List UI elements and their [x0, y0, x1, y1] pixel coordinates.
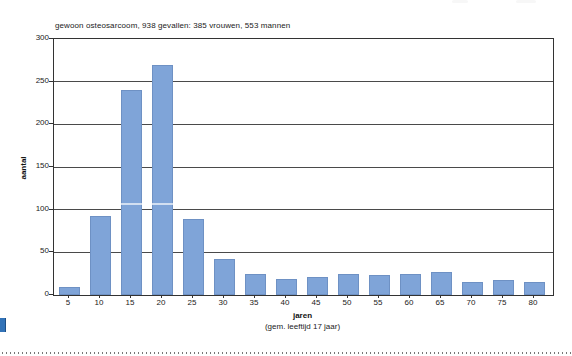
gridline — [54, 81, 553, 82]
x-tick-label: 80 — [520, 298, 546, 308]
x-tick-mark — [316, 295, 317, 298]
x-tick-label: 5 — [55, 298, 81, 308]
x-tick-mark — [347, 295, 348, 298]
y-tick-label: 50 — [17, 246, 49, 256]
bar — [307, 277, 328, 295]
dotted-divider — [2, 351, 572, 354]
figure: gewoon osteosarcoom, 938 gevallen: 385 v… — [0, 0, 572, 356]
bar — [59, 287, 80, 295]
x-tick-label: 25 — [179, 298, 205, 308]
x-tick-mark — [192, 295, 193, 298]
x-tick-label: 20 — [148, 298, 174, 308]
bar — [245, 274, 266, 295]
bar — [338, 274, 359, 295]
x-tick-label: 55 — [365, 298, 391, 308]
y-tick-label: 0 — [17, 289, 49, 299]
y-tick-mark — [49, 38, 53, 39]
y-tick-mark — [49, 209, 53, 210]
x-tick-label: 75 — [489, 298, 515, 308]
y-tick-mark — [49, 294, 53, 295]
x-tick-mark — [99, 295, 100, 298]
y-tick-mark — [49, 123, 53, 124]
x-tick-label: 60 — [396, 298, 422, 308]
x-tick-label: 70 — [458, 298, 484, 308]
x-tick-label: 50 — [334, 298, 360, 308]
y-tick-label: 150 — [17, 161, 49, 171]
bar — [90, 216, 111, 295]
x-axis-note: (gem. leeftijd 17 jaar) — [53, 322, 552, 331]
bar — [462, 282, 483, 295]
x-tick-label: 65 — [427, 298, 453, 308]
bar — [276, 279, 297, 295]
y-tick-label: 250 — [17, 76, 49, 86]
x-tick-mark — [471, 295, 472, 298]
bar — [152, 65, 173, 295]
x-tick-label: 10 — [86, 298, 112, 308]
bar — [493, 280, 514, 295]
x-tick-mark — [285, 295, 286, 298]
x-tick-label: 40 — [272, 298, 298, 308]
x-tick-mark — [378, 295, 379, 298]
x-tick-mark — [161, 295, 162, 298]
y-tick-mark — [49, 251, 53, 252]
x-tick-label: 35 — [241, 298, 267, 308]
x-axis-title: jaren — [53, 311, 552, 320]
x-tick-label: 30 — [210, 298, 236, 308]
chart-title: gewoon osteosarcoom, 938 gevallen: 385 v… — [55, 21, 290, 30]
x-tick-mark — [409, 295, 410, 298]
x-tick-mark — [440, 295, 441, 298]
bar — [431, 272, 452, 295]
x-tick-label: 45 — [303, 298, 329, 308]
y-tick-label: 300 — [17, 33, 49, 43]
bar — [183, 219, 204, 295]
x-tick-mark — [130, 295, 131, 298]
x-tick-mark — [533, 295, 534, 298]
x-tick-mark — [223, 295, 224, 298]
bar — [369, 275, 390, 295]
x-tick-mark — [254, 295, 255, 298]
bar — [524, 282, 545, 295]
page-corner-marker — [0, 318, 6, 332]
y-tick-mark — [49, 166, 53, 167]
bar — [400, 274, 421, 295]
y-tick-label: 200 — [17, 118, 49, 128]
scan-smudge — [452, 0, 468, 3]
bar — [214, 259, 235, 295]
x-tick-label: 15 — [117, 298, 143, 308]
scan-smudge — [516, 0, 536, 3]
x-tick-mark — [502, 295, 503, 298]
x-tick-mark — [68, 295, 69, 298]
scan-artifact-line — [119, 203, 175, 205]
y-tick-label: 100 — [17, 204, 49, 214]
y-tick-mark — [49, 81, 53, 82]
plot-area — [53, 38, 554, 296]
bar — [121, 90, 142, 295]
